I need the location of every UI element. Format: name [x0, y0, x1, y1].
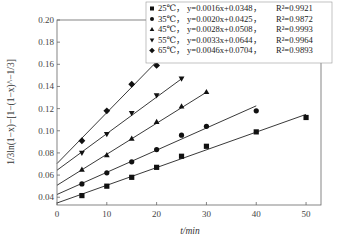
plot-area [57, 62, 309, 203]
square-marker [154, 165, 159, 170]
square-marker [150, 7, 154, 11]
legend-r2: R²=0.9993 [276, 24, 313, 34]
x-tick-label: 0 [55, 209, 60, 219]
legend-item: 55℃，y=0.0033x+0.0644，R²=0.9964 [150, 35, 314, 45]
square-marker [254, 129, 259, 134]
x-tick-label: 10 [102, 209, 112, 219]
y-tick-label: 0.04 [38, 192, 54, 202]
legend-r2: R²=0.9964 [276, 35, 313, 45]
circle-marker [79, 181, 84, 186]
triangle-up-marker [179, 103, 185, 108]
legend-r2: R²=0.9893 [276, 45, 313, 55]
circle-marker [150, 17, 154, 21]
triangle-up-marker [154, 119, 160, 124]
y-tick-label: 0.18 [38, 37, 54, 47]
legend-label: 35℃， [158, 14, 185, 24]
y-tick-label: 0.06 [38, 170, 54, 180]
diamond-marker [79, 137, 86, 144]
triangle-down-marker [179, 77, 185, 82]
legend-label: 25℃， [158, 3, 185, 13]
circle-marker [104, 170, 109, 175]
square-marker [129, 175, 134, 180]
x-tick-label: 20 [152, 209, 162, 219]
circle-marker [254, 108, 259, 113]
legend-r2: R²=0.9872 [276, 14, 313, 24]
legend-label: 55℃， [158, 35, 185, 45]
legend-equation: y=0.0020x+0.0425， [187, 14, 262, 24]
y-tick-label: 0.08 [38, 148, 54, 158]
y-tick-label: 0.14 [38, 81, 54, 91]
diamond-marker [103, 107, 110, 114]
legend-item: 25℃，y=0.0016x+0.0348，R²=0.9921 [150, 3, 313, 13]
legend-item: 35℃，y=0.0020x+0.0425，R²=0.9872 [150, 14, 313, 24]
y-tick-label: 0.12 [38, 104, 54, 114]
x-axis-title: t/min [180, 226, 200, 236]
legend-equation: y=0.0033x+0.0644， [187, 35, 262, 45]
series-25℃ [57, 114, 309, 203]
triangle-up-marker [79, 166, 85, 171]
circle-marker [154, 147, 159, 152]
legend-equation: y=0.0028x+0.0508， [187, 24, 262, 34]
y-tick-label: 0.16 [38, 59, 54, 69]
series-35℃ [57, 106, 259, 195]
legend-r2: R²=0.9921 [276, 3, 313, 13]
legend: 25℃，y=0.0016x+0.0348，R²=0.992135℃，y=0.00… [146, 2, 332, 63]
chart: 0.040.060.080.100.120.140.160.180.20 010… [0, 0, 340, 242]
series-65℃ [57, 62, 160, 164]
square-marker [303, 115, 308, 120]
legend-item: 65℃，y=0.0046x+0.0704，R²=0.9893 [149, 45, 313, 55]
circle-marker [179, 133, 184, 138]
circle-marker [129, 159, 134, 164]
square-marker [204, 144, 209, 149]
y-tick-label: 0.10 [38, 126, 54, 136]
legend-equation: y=0.0016x+0.0348， [187, 3, 262, 13]
circle-marker [204, 124, 209, 129]
x-axis: 01020304050 [55, 202, 311, 219]
triangle-up-marker [204, 89, 210, 94]
fit-line [57, 79, 182, 170]
diamond-marker [128, 81, 135, 88]
y-tick-label: 0.20 [38, 15, 54, 25]
square-marker [179, 154, 184, 159]
series-55℃ [57, 77, 184, 171]
x-tick-label: 50 [302, 209, 312, 219]
legend-label: 65℃， [158, 45, 185, 55]
legend-item: 45℃，y=0.0028x+0.0508，R²=0.9993 [150, 24, 313, 34]
legend-equation: y=0.0046x+0.0704， [187, 45, 262, 55]
x-tick-label: 30 [202, 209, 212, 219]
legend-label: 45℃， [158, 24, 185, 34]
square-marker [79, 193, 84, 198]
x-tick-label: 40 [252, 209, 262, 219]
triangle-up-marker [129, 135, 135, 140]
y-axis-title: 1/3ln(1−x)−[1−(1−x)^−1/3] [6, 59, 17, 165]
square-marker [104, 184, 109, 189]
